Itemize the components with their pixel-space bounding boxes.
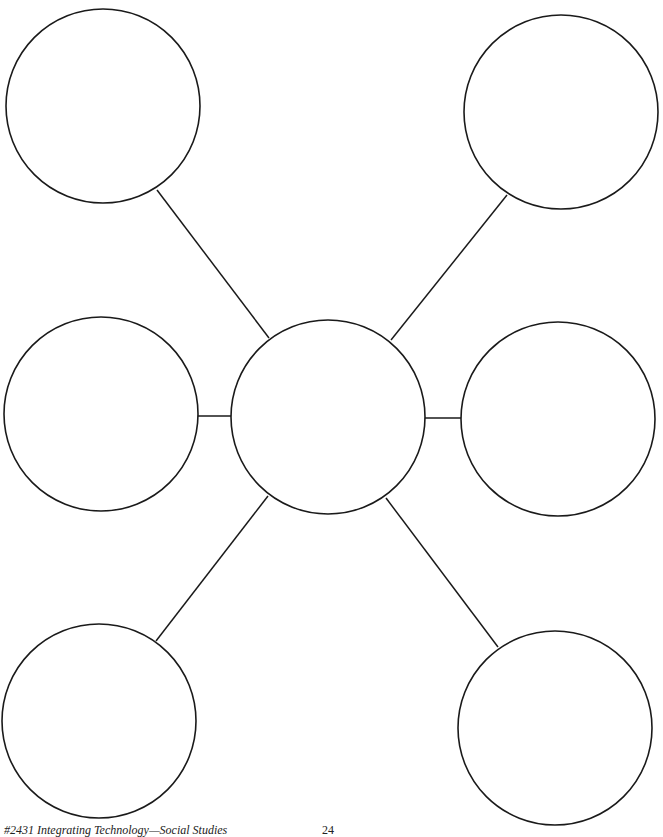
circle-shape [231, 320, 425, 514]
circle-shape [458, 631, 652, 825]
circle-node-middle-right [461, 322, 655, 516]
circle-node-top-left [6, 9, 200, 203]
connector-top-left [157, 190, 269, 338]
circle-node-middle-left [4, 317, 198, 511]
publication-title: #2431 Integrating Technology—Social Stud… [4, 823, 227, 837]
circle-shape [2, 624, 196, 818]
circle-shape [4, 317, 198, 511]
connector-bottom-right [386, 498, 498, 647]
circle-node-bottom-right [458, 631, 652, 825]
connector-top-right [391, 195, 507, 340]
connector-bottom-left [156, 496, 268, 641]
circle-shape [464, 15, 658, 209]
circle-node-top-right [464, 15, 658, 209]
circle-shape [6, 9, 200, 203]
circle-shape [461, 322, 655, 516]
page-footer: #2431 Integrating Technology—Social Stud… [0, 823, 663, 837]
circle-node-bottom-left [2, 624, 196, 818]
circle-node-center [231, 320, 425, 514]
page-number: 24 [322, 823, 334, 837]
circle-nodes [2, 9, 658, 825]
